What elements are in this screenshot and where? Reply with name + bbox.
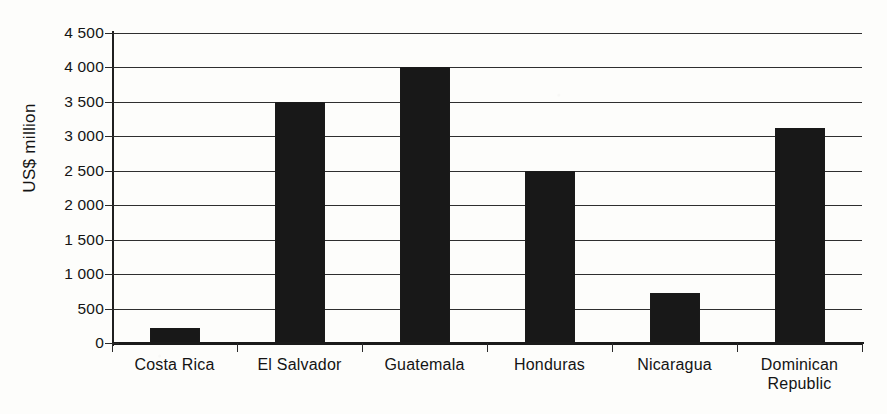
y-tick-label: 4 000 (40, 60, 104, 76)
gridline-2500 (112, 171, 862, 172)
y-tick-mark (105, 102, 119, 103)
gridline-2000 (112, 205, 862, 206)
x-tick-label: DominicanRepublic (735, 355, 865, 393)
y-tick-label: 2 500 (40, 163, 104, 179)
y-tick-mark (105, 205, 119, 206)
y-tick-label: 1 000 (40, 266, 104, 282)
y-tick-label: 0 (40, 335, 104, 351)
y-tick-mark (105, 274, 119, 275)
y-tick-label: 2 000 (40, 197, 104, 213)
x-tick-mark (862, 343, 863, 352)
x-tick-mark (487, 343, 488, 352)
y-tick-mark (105, 309, 119, 310)
y-tick-label: 3 000 (40, 129, 104, 145)
gridline-500 (112, 309, 862, 310)
x-tick-mark (237, 343, 238, 352)
y-tick-label: 1 500 (40, 232, 104, 248)
x-tick-label: Costa Rica (110, 355, 240, 374)
bar (775, 128, 825, 343)
y-axis-title: US$ million (20, 78, 40, 218)
x-tick-label: Guatemala (360, 355, 490, 374)
x-tick-mark (362, 343, 363, 352)
gridline-3000 (112, 136, 862, 137)
bar (400, 67, 450, 343)
bar (275, 102, 325, 343)
x-tick-label: El Salvador (235, 355, 365, 374)
x-tick-label-line: El Salvador (235, 355, 365, 374)
x-tick-label-line: Dominican (735, 355, 865, 374)
x-tick-label: Honduras (485, 355, 615, 374)
y-tick-mark (105, 136, 119, 137)
x-tick-label: Nicaragua (610, 355, 740, 374)
x-tick-mark (737, 343, 738, 352)
x-tick-mark (112, 343, 113, 352)
x-tick-label-line: Costa Rica (110, 355, 240, 374)
y-tick-label: 4 500 (40, 25, 104, 41)
gridline-1500 (112, 240, 862, 241)
x-tick-label-line: Nicaragua (610, 355, 740, 374)
bar-chart-figure: US$ million 05001 0001 5002 0002 5003 00… (0, 0, 887, 414)
bar (650, 293, 700, 343)
x-tick-mark (612, 343, 613, 352)
y-axis-tick-labels: 05001 0001 5002 0002 5003 0003 5004 0004… (40, 0, 104, 414)
y-tick-mark (105, 67, 119, 68)
gridline-4500 (112, 33, 862, 34)
y-tick-mark (105, 171, 119, 172)
y-tick-mark (105, 33, 119, 34)
plot-area (112, 33, 862, 343)
y-tick-label: 500 (40, 301, 104, 317)
gridline-1000 (112, 274, 862, 275)
bar (525, 171, 575, 343)
x-tick-label-line: Republic (735, 374, 865, 393)
gridline-4000 (112, 67, 862, 68)
bar (150, 328, 200, 344)
x-axis-line (112, 342, 864, 344)
y-tick-label: 3 500 (40, 94, 104, 110)
x-tick-label-line: Honduras (485, 355, 615, 374)
y-tick-mark (105, 240, 119, 241)
gridline-3500 (112, 102, 862, 103)
x-tick-label-line: Guatemala (360, 355, 490, 374)
